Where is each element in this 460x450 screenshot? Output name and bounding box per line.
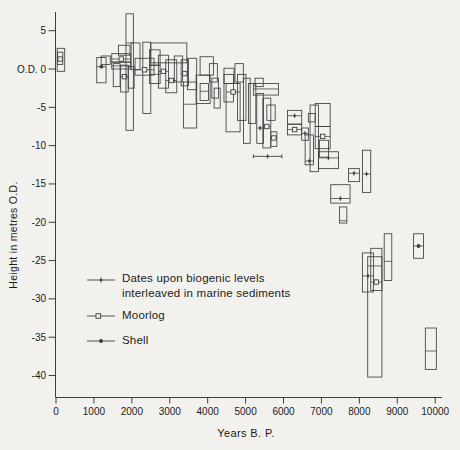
- error-box: [310, 105, 318, 172]
- error-box: [224, 68, 234, 83]
- error-box: [362, 150, 370, 192]
- biogenic-marker: [339, 197, 341, 199]
- moorlog-marker: [169, 78, 173, 82]
- error-box: [200, 57, 213, 75]
- y-tick-label: -10: [32, 140, 47, 151]
- error-box: [200, 84, 208, 101]
- biogenic-marker: [327, 157, 329, 159]
- y-tick-label: 5: [40, 25, 46, 36]
- legend-label-shell: Shell: [122, 333, 149, 348]
- legend-label-moorlog: Moorlog: [122, 308, 165, 323]
- x-tick-label: 3000: [159, 406, 182, 417]
- moorlog-marker: [183, 71, 187, 75]
- x-tick-label: 2000: [121, 406, 144, 417]
- error-box: [113, 64, 120, 87]
- error-box: [183, 82, 196, 128]
- plot-svg: 0100020003000400050006000700080009000100…: [0, 0, 460, 450]
- shell-marker: [100, 65, 104, 69]
- error-box: [224, 74, 233, 102]
- error-box: [384, 234, 392, 281]
- moorlog-marker: [292, 127, 296, 131]
- error-box: [425, 328, 436, 369]
- x-tick-label: 8000: [348, 406, 371, 417]
- error-box: [255, 78, 263, 86]
- biogenic-marker: [259, 127, 261, 129]
- error-box: [308, 113, 315, 121]
- y-tick-label: -40: [32, 370, 47, 381]
- moorlog-marker: [231, 90, 235, 94]
- sea-level-age-depth-chart: 0100020003000400050006000700080009000100…: [0, 0, 460, 450]
- biogenic-marker: [293, 115, 295, 117]
- y-tick-label: -15: [32, 178, 47, 189]
- y-tick-label: O.D. 0: [17, 64, 46, 75]
- moorlog-marker: [161, 69, 165, 73]
- error-box: [368, 257, 382, 377]
- error-box: [244, 78, 251, 143]
- biogenic-marker: [266, 155, 268, 157]
- x-tick-label: 9000: [386, 406, 409, 417]
- moorlog-marker: [119, 57, 123, 61]
- moorlog-marker: [320, 134, 324, 138]
- error-box: [237, 74, 246, 120]
- x-tick-label: 1000: [83, 406, 106, 417]
- x-tick-label: 5000: [234, 406, 257, 417]
- y-tick-label: -35: [32, 332, 47, 343]
- y-tick-label: -20: [32, 217, 47, 228]
- biogenic-marker: [365, 173, 367, 175]
- moorlog-marker: [142, 68, 146, 72]
- y-tick-label: -25: [32, 255, 47, 266]
- biogenic-marker: [353, 172, 355, 174]
- moorlog-marker: [265, 124, 269, 128]
- error-box: [235, 64, 243, 82]
- x-tick-label: 0: [53, 406, 59, 417]
- error-box: [248, 84, 255, 124]
- x-tick-label: 10000: [421, 406, 449, 417]
- error-box: [257, 94, 264, 144]
- x-tick-label: 6000: [272, 406, 295, 417]
- error-box: [131, 43, 140, 70]
- shell-marker: [417, 244, 421, 248]
- biogenic-marker: [304, 132, 306, 134]
- y-tick-label: -30: [32, 293, 47, 304]
- x-tick-label: 4000: [197, 406, 220, 417]
- x-tick-label: 7000: [310, 406, 333, 417]
- y-axis-title: Height in metres O.D.: [7, 125, 21, 345]
- moorlog-marker: [374, 280, 378, 284]
- y-tick-label: -5: [37, 102, 46, 113]
- error-box: [315, 103, 330, 126]
- moorlog-marker: [272, 136, 276, 140]
- legend-label-biogenic: Dates upon biogenic levels interleaved i…: [122, 271, 291, 300]
- error-box: [126, 14, 133, 130]
- moorlog-marker: [58, 57, 62, 61]
- x-axis-title: Years B. P.: [56, 427, 436, 439]
